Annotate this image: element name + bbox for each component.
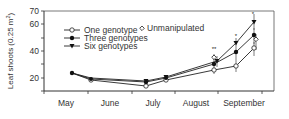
open-diamond-icon [140, 26, 145, 31]
annotation-aug: ** [212, 46, 217, 52]
legend: One genotype Three genotypes Six genotyp… [64, 23, 204, 51]
markers-unmanipulated [212, 37, 259, 60]
leaf-shoots-chart: Leaf shoots (0.25 m2) 70 60 40 20 May Ju… [0, 0, 289, 119]
filled-circle-icon [70, 36, 74, 40]
legend-unmanipulated: Unmanipulated [147, 23, 204, 33]
y-tick-20: 20 [30, 73, 40, 83]
annotation-sep1: * [235, 33, 238, 39]
x-label-july: July [145, 98, 161, 108]
y-tick-60: 60 [30, 19, 40, 29]
x-label-may: May [58, 98, 75, 108]
x-label-september: September [223, 98, 265, 108]
y-tick-40: 40 [30, 46, 40, 56]
series-one-genotype-line [72, 48, 254, 86]
annotation-sep2: * [252, 11, 255, 17]
x-label-august: August [183, 98, 210, 108]
y-tick-70: 70 [30, 6, 40, 16]
y-axis-title: Leaf shoots (0.25 m2) [5, 12, 15, 89]
open-circle-icon [70, 28, 74, 32]
x-label-june: June [101, 98, 120, 108]
legend-six-genotypes: Six genotypes [84, 41, 137, 51]
chart-svg: Leaf shoots (0.25 m2) 70 60 40 20 May Ju… [0, 0, 289, 119]
